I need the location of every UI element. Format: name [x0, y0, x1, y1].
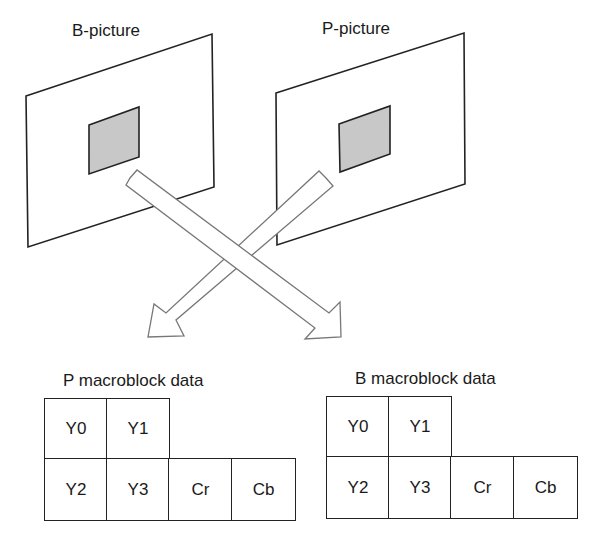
- p-cell-y1: Y1: [106, 398, 170, 460]
- p-cell-y2: Y2: [44, 458, 108, 521]
- b-cell-y0: Y0: [326, 396, 390, 458]
- p-cell-y3: Y3: [106, 458, 170, 521]
- b-cell-y3: Y3: [388, 456, 452, 519]
- b-cell-cr: Cr: [450, 456, 515, 519]
- p-macroblock-title: P macroblock data: [63, 372, 203, 389]
- p-cell-y0: Y0: [44, 398, 108, 460]
- b-cell-y2: Y2: [326, 456, 390, 519]
- p-cell-cr: Cr: [168, 458, 233, 521]
- p-picture-label: P-picture: [322, 20, 390, 37]
- b-picture-label: B-picture: [72, 22, 140, 39]
- b-cell-y1: Y1: [388, 396, 452, 458]
- b-cell-cb: Cb: [513, 456, 578, 519]
- p-cell-cb: Cb: [231, 458, 296, 521]
- b-macroblock-title: B macroblock data: [355, 370, 496, 387]
